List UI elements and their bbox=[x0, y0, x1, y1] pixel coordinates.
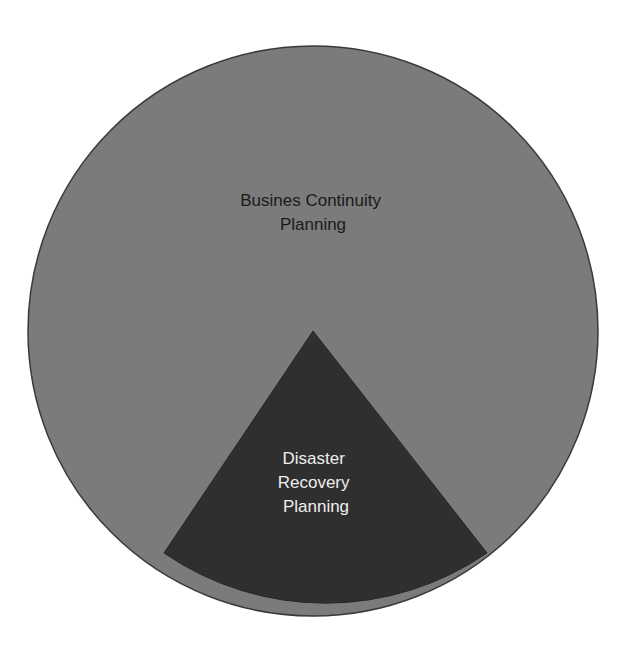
disaster-recovery-label-line-1: Disaster bbox=[282, 449, 345, 468]
business-continuity-label-line-2: Planning bbox=[280, 215, 346, 234]
disaster-recovery-label-line-3: Planning bbox=[283, 497, 349, 516]
bcp-drp-diagram: Busines Continuity Planning Disaster Rec… bbox=[0, 0, 626, 651]
disaster-recovery-label: Disaster Recovery Planning bbox=[278, 449, 355, 516]
disaster-recovery-label-line-2: Recovery bbox=[278, 473, 350, 492]
business-continuity-label-line-1: Busines Continuity bbox=[240, 191, 381, 210]
